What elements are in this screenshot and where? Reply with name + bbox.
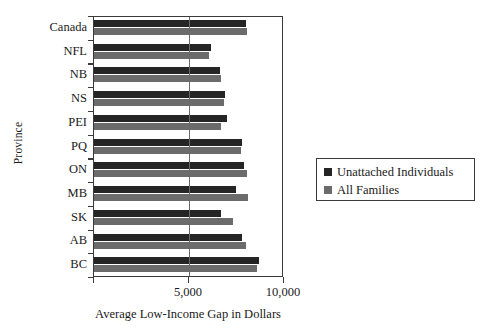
- bar-pei-families: [94, 123, 221, 130]
- bar-canada-unattached: [94, 20, 246, 27]
- y-axis-label-ab: AB: [70, 234, 87, 247]
- y-axis-label-mb: MB: [68, 187, 87, 200]
- x-axis-tick-0: [93, 277, 94, 283]
- low-income-gap-bar-chart: Province CanadaNFLNBNSPEIPQONMBSKABBC 5,…: [0, 0, 490, 334]
- bar-ns-families: [94, 99, 224, 106]
- bar-pei-unattached: [94, 115, 227, 122]
- bar-mb-unattached: [94, 186, 236, 193]
- bar-pq-unattached: [94, 139, 242, 146]
- x-axis-label-5000: 5,000: [174, 285, 202, 300]
- y-axis-label-ns: NS: [71, 92, 87, 105]
- bar-bc-unattached: [94, 257, 259, 264]
- bar-group: [94, 91, 282, 112]
- bar-group: [94, 67, 282, 88]
- x-axis-tick-10000: [283, 277, 284, 283]
- y-axis-label-canada: Canada: [50, 21, 87, 34]
- bars-layer: [94, 17, 282, 276]
- bar-nfl-unattached: [94, 44, 211, 51]
- y-axis-label-nfl: NFL: [63, 45, 87, 58]
- gridline-5000: [189, 17, 190, 276]
- chart-legend: Unattached IndividualsAll Families: [316, 158, 475, 201]
- bar-group: [94, 44, 282, 65]
- bar-group: [94, 139, 282, 160]
- bar-group: [94, 257, 282, 278]
- y-axis-label-bc: BC: [70, 258, 87, 271]
- legend-swatch-icon: [324, 168, 332, 176]
- bar-group: [94, 210, 282, 231]
- bar-sk-unattached: [94, 210, 221, 217]
- y-axis-label-pei: PEI: [68, 116, 87, 129]
- y-axis-label-on: ON: [69, 163, 87, 176]
- bar-on-unattached: [94, 162, 244, 169]
- bar-on-families: [94, 170, 247, 177]
- legend-swatch-icon: [324, 186, 332, 194]
- legend-entry: All Families: [324, 182, 474, 198]
- legend-label: Unattached Individuals: [337, 166, 453, 179]
- legend-entry: Unattached Individuals: [324, 164, 474, 180]
- bar-nb-families: [94, 75, 221, 82]
- y-axis-label-sk: SK: [71, 211, 87, 224]
- bar-sk-families: [94, 218, 233, 225]
- bar-group: [94, 162, 282, 183]
- y-axis-label-nb: NB: [70, 68, 87, 81]
- legend-label: All Families: [337, 184, 399, 197]
- bar-ab-unattached: [94, 234, 242, 241]
- x-axis-tick-5000: [188, 277, 189, 283]
- x-axis-label-10000: 10,000: [266, 285, 300, 300]
- bar-group: [94, 115, 282, 136]
- plot-area: [93, 16, 283, 277]
- y-axis-label-pq: PQ: [71, 140, 87, 153]
- bar-nb-unattached: [94, 67, 220, 74]
- bar-bc-families: [94, 265, 257, 272]
- bar-canada-families: [94, 28, 247, 35]
- bar-nfl-families: [94, 52, 209, 59]
- bar-ab-families: [94, 242, 246, 249]
- x-axis-title: Average Low-Income Gap in Dollars: [93, 307, 283, 322]
- bar-group: [94, 234, 282, 255]
- bar-group: [94, 20, 282, 41]
- bar-mb-families: [94, 194, 248, 201]
- bar-pq-families: [94, 147, 241, 154]
- y-axis-labels: CanadaNFLNBNSPEIPQONMBSKABBC: [0, 0, 87, 334]
- bar-group: [94, 186, 282, 207]
- bar-ns-unattached: [94, 91, 225, 98]
